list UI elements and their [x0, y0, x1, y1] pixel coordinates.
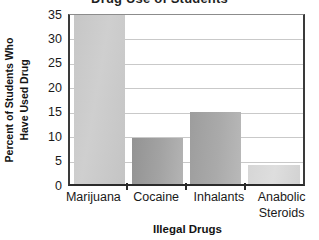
y-axis-title-line-2: Have Used Drug [17, 14, 32, 186]
y-axis-title-line-1: Percent of Students Who [2, 14, 17, 186]
bar-chart-figure: Drug Use of Students Percent of Students… [0, 0, 319, 240]
x-tick-label-anabolic-steroids: Anabolic Steroids [250, 189, 313, 221]
bar-cocaine [132, 138, 183, 184]
bar-slot-inhalants [187, 15, 245, 184]
y-tick-label-15: 15 [48, 106, 62, 118]
bar-slot-marijuana [70, 15, 128, 184]
y-axis-title-text: Percent of Students Who Have Used Drug [2, 14, 32, 186]
bar-slot-anabolic-steroids [245, 15, 303, 184]
x-tick-label-inhalants: Inhalants [188, 189, 251, 221]
plot-area [68, 14, 305, 186]
y-tick-label-25: 25 [48, 57, 62, 69]
y-tick-label-0: 0 [55, 180, 62, 192]
y-tick-label-10: 10 [48, 131, 62, 143]
y-axis-tick-labels: 0 5 10 15 20 25 30 35 [34, 14, 66, 186]
y-tick-label-30: 30 [48, 33, 62, 45]
x-axis-tick-labels: Marijuana Cocaine Inhalants Anabolic Ste… [62, 189, 313, 221]
x-axis-title: Illegal Drugs [62, 223, 313, 235]
bar-marijuana [74, 15, 125, 184]
x-tick-label-cocaine: Cocaine [125, 189, 188, 221]
y-tick-label-5: 5 [55, 155, 62, 167]
y-axis-title: Percent of Students Who Have Used Drug [0, 14, 34, 186]
bar-slot-cocaine [128, 15, 186, 184]
bar-inhalants [190, 112, 241, 184]
bar-series [70, 15, 303, 184]
y-tick-label-20: 20 [48, 82, 62, 94]
bar-anabolic-steroids [248, 165, 299, 184]
y-tick-label-35: 35 [48, 9, 62, 21]
x-tick-label-marijuana: Marijuana [62, 189, 125, 221]
chart-title: Drug Use of Students [0, 0, 319, 6]
